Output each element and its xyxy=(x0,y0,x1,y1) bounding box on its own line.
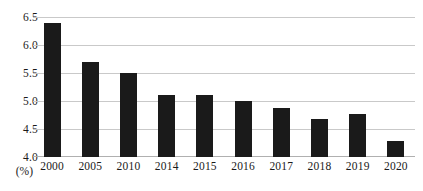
x-axis-labels: 2000200520102014201520162017201820192020 xyxy=(33,161,415,183)
bar-2014 xyxy=(158,95,175,157)
bar-2000 xyxy=(44,23,61,157)
bars-layer xyxy=(33,17,415,157)
bar-2016 xyxy=(235,101,252,157)
bar-2020 xyxy=(387,141,404,157)
bar-2017 xyxy=(273,108,290,157)
bar-2005 xyxy=(82,62,99,157)
y-axis-unit-label: (%) xyxy=(3,166,33,178)
bar-2018 xyxy=(311,119,328,157)
bar-2010 xyxy=(120,73,137,157)
plot-area xyxy=(33,17,415,157)
x-axis-tick-label: 2020 xyxy=(374,161,418,173)
bar-2019 xyxy=(349,114,366,157)
bar-2015 xyxy=(196,95,213,157)
bar-chart: 6.5 6.0 5.5 5.0 4.5 4.0 (%) 200020052010… xyxy=(0,0,423,191)
